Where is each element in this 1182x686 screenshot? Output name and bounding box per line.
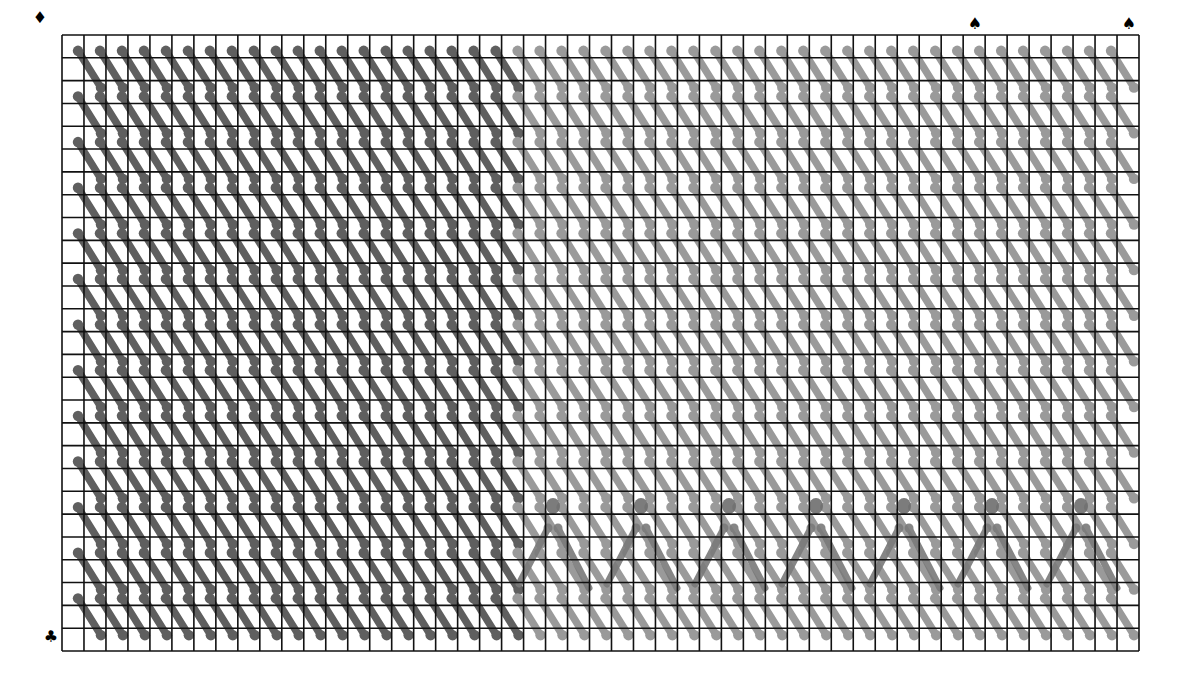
stitch-dot: [250, 128, 260, 138]
stitch-dot: [425, 447, 435, 457]
stitch-dot: [864, 456, 874, 466]
stitch-dot: [930, 183, 940, 193]
stitch-dot: [293, 411, 303, 421]
stitch-dot: [469, 630, 479, 640]
stitch-dot: [732, 456, 742, 466]
stitch-dot: [73, 274, 83, 284]
stitch-dot: [161, 183, 171, 193]
stitch-dot: [776, 183, 786, 193]
stitch-dot: [952, 91, 962, 101]
motif-head-dot: [722, 498, 736, 514]
stitch-dot: [601, 174, 611, 184]
stitch-dot: [1084, 137, 1094, 147]
stitch-dot: [644, 274, 654, 284]
stitch-dot: [424, 502, 434, 512]
stitch-dot: [294, 311, 304, 321]
stitch-dot: [886, 46, 896, 56]
stitch-dot: [710, 183, 720, 193]
stitch-dot: [1085, 447, 1095, 457]
stitch-dot: [491, 265, 501, 275]
stitch-dot: [820, 456, 830, 466]
stitch-dot: [688, 183, 698, 193]
stitch-dot: [337, 456, 347, 466]
stitch-dot: [183, 274, 193, 284]
stitch-dot: [512, 274, 522, 284]
stitch-dot: [271, 137, 281, 147]
stitch-dot: [930, 593, 940, 603]
stitch-dot: [843, 82, 853, 92]
stitch-dot: [293, 502, 303, 512]
stitch-dot: [579, 174, 589, 184]
stitch-dot: [556, 456, 566, 466]
stitch-dot: [271, 456, 281, 466]
stitch-dot: [997, 265, 1007, 275]
stitch-dot: [842, 593, 852, 603]
stitch-dot: [183, 228, 193, 238]
stitch-dot: [645, 311, 655, 321]
stitch-dot: [644, 365, 654, 375]
stitch-dot: [205, 274, 215, 284]
stitch-dot: [403, 82, 413, 92]
stitch-dot: [821, 356, 831, 366]
stitch-dot: [865, 539, 875, 549]
stitch-dot: [272, 265, 282, 275]
stitch-dot: [688, 411, 698, 421]
stitch-dot: [293, 137, 303, 147]
stitch-dot: [1085, 128, 1095, 138]
stitch-dot: [952, 228, 962, 238]
stitch-dot: [95, 365, 105, 375]
stitch-dot: [534, 411, 544, 421]
stitch-dot: [249, 274, 259, 284]
stitch-dot: [118, 356, 128, 366]
stitch-dot: [205, 456, 215, 466]
stitch-dot: [623, 447, 633, 457]
stitch-dot: [316, 219, 326, 229]
stitch-dot: [337, 274, 347, 284]
stitch-dot: [952, 411, 962, 421]
stitch-dot: [799, 82, 809, 92]
stitch-dot: [337, 183, 347, 193]
stitch-dot: [842, 228, 852, 238]
stitch-dot: [930, 228, 940, 238]
stitch-dot: [997, 82, 1007, 92]
stitch-dot: [1018, 228, 1028, 238]
stitch-dot: [315, 502, 325, 512]
stitch-dot: [403, 356, 413, 366]
stitch-dot: [73, 137, 83, 147]
stitch-dot: [886, 319, 896, 329]
stitch-dot: [380, 183, 390, 193]
stitch-dot: [380, 46, 390, 56]
stitch-dot: [227, 183, 237, 193]
stitch-dot: [490, 456, 500, 466]
stitch-dot: [1019, 82, 1029, 92]
stitch-dot: [381, 265, 391, 275]
stitch-dot: [425, 402, 435, 412]
stitch-dot: [864, 319, 874, 329]
stitch-dot: [755, 447, 765, 457]
stitch-dot: [1041, 128, 1051, 138]
stitch-dot: [1018, 183, 1028, 193]
stitch-dot: [294, 447, 304, 457]
stitch-dot: [272, 584, 282, 594]
stitch-dot: [864, 46, 874, 56]
stitch-dot: [249, 228, 259, 238]
stitch-dot: [402, 46, 412, 56]
stitch-dot: [249, 456, 259, 466]
stitch-dot: [315, 137, 325, 147]
stitch-dot: [579, 402, 589, 412]
stitch-dot: [666, 502, 676, 512]
stitch-dot: [843, 265, 853, 275]
stitch-dot: [754, 411, 764, 421]
stitch-dot: [469, 82, 479, 92]
stitch-dot: [425, 265, 435, 275]
stitch-dot: [250, 311, 260, 321]
stitch-dot: [777, 630, 787, 640]
stitch-dot: [338, 447, 348, 457]
stitch-dot: [139, 183, 149, 193]
stitch-dot: [622, 411, 632, 421]
stitch-dot: [205, 411, 215, 421]
stitch-dot: [754, 593, 764, 603]
stitch-dot: [227, 274, 237, 284]
stitch-dot: [622, 593, 632, 603]
stitch-dot: [249, 548, 259, 558]
